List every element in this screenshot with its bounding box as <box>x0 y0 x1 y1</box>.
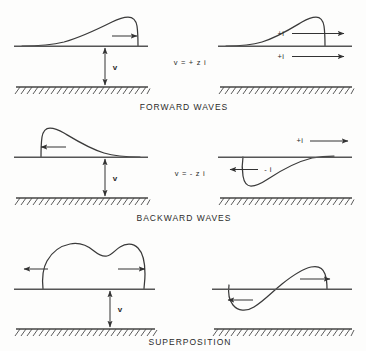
superposition-right-ground <box>213 329 354 336</box>
backward-left-panel: v <box>14 128 150 205</box>
backward-current-label-lower: - i <box>264 165 271 174</box>
superposition-right-panel <box>212 267 354 336</box>
backward-caption: BACKWARD WAVES <box>137 213 232 223</box>
backward-voltage-waveform <box>41 128 140 157</box>
backward-equation: v = - z i <box>175 169 206 178</box>
forward-caption: FORWARD WAVES <box>140 102 229 112</box>
superposition-voltage-label: v <box>118 305 123 314</box>
superposition-voltage-waveform <box>43 243 145 289</box>
row-backward-waves: v <box>14 128 354 223</box>
forward-left-panel: v <box>14 17 150 94</box>
forward-voltage-label: v <box>113 63 118 72</box>
superposition-caption: SUPERPOSITION <box>149 337 232 347</box>
forward-equation: v = + z i <box>174 58 207 67</box>
forward-current-label-upper: +i <box>278 29 285 38</box>
forward-right-ground <box>219 87 354 94</box>
superposition-current-waveform <box>229 267 327 311</box>
backward-current-waveform <box>242 156 334 186</box>
wave-diagram-figure: v <box>0 0 366 351</box>
forward-voltage-waveform <box>22 17 138 46</box>
forward-left-ground <box>15 87 150 94</box>
row-superposition: v <box>14 243 354 347</box>
row-forward-waves: v <box>14 17 354 112</box>
forward-current-waveform <box>226 17 325 46</box>
forward-current-label-lower: +i <box>278 52 285 61</box>
backward-left-ground <box>15 198 150 205</box>
superposition-left-panel: v <box>14 243 157 336</box>
backward-right-panel: +i - i <box>218 136 354 205</box>
superposition-left-ground <box>15 329 157 336</box>
backward-voltage-label: v <box>113 174 118 183</box>
backward-current-label-upper: +i <box>297 136 304 145</box>
forward-right-panel: +i +i <box>218 17 354 94</box>
backward-right-ground <box>219 198 354 205</box>
